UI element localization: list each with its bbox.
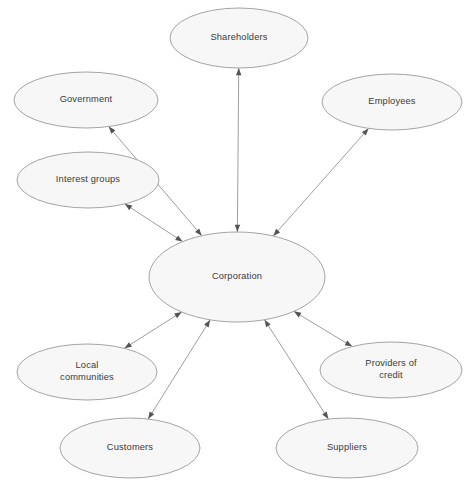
diagram-svg-surface: CorporationShareholdersGovernmentEmploye… <box>0 0 474 490</box>
node-shareholders-label: Shareholders <box>210 32 267 42</box>
edge-corporation-interest-groups-line <box>125 204 183 242</box>
node-providers-of-credit-label-line-1: credit <box>379 370 403 380</box>
edge-corporation-customers-arrowhead-to <box>148 411 154 419</box>
edge-corporation-suppliers-arrowhead-from <box>264 320 270 328</box>
node-government[interactable]: Government <box>14 72 158 128</box>
node-government-label-line-0: Government <box>60 94 113 104</box>
node-corporation-label: Corporation <box>212 271 262 281</box>
node-local-communities[interactable]: Localcommunities <box>17 344 157 400</box>
node-employees-label: Employees <box>368 96 416 106</box>
edge-corporation-suppliers-line <box>264 320 328 419</box>
edge-corporation-interest-groups <box>125 204 183 242</box>
node-suppliers-label: Suppliers <box>327 442 367 452</box>
node-providers-of-credit[interactable]: Providers ofcredit <box>320 342 462 398</box>
node-providers-of-credit-label-line-0: Providers of <box>365 359 417 369</box>
nodes-layer: CorporationShareholdersGovernmentEmploye… <box>14 8 462 478</box>
node-interest-groups-label: Interest groups <box>56 174 120 184</box>
edge-corporation-customers-line <box>148 320 210 419</box>
edge-corporation-shareholders <box>235 68 242 232</box>
stakeholder-diagram: CorporationShareholdersGovernmentEmploye… <box>0 0 474 490</box>
edge-corporation-employees <box>273 128 368 236</box>
edge-corporation-customers <box>148 320 210 419</box>
edge-corporation-local-communities-arrowhead-to <box>124 342 132 348</box>
node-local-communities-label-line-0: Local <box>76 361 99 371</box>
node-employees-label-line-0: Employees <box>368 96 416 106</box>
edge-corporation-suppliers <box>264 320 328 419</box>
edge-corporation-local-communities-arrowhead-from <box>174 312 182 318</box>
edge-corporation-providers-of-credit-arrowhead-to <box>345 341 353 347</box>
node-corporation-label-line-0: Corporation <box>212 271 262 281</box>
edge-corporation-shareholders-line <box>237 68 238 232</box>
edge-corporation-employees-line <box>273 128 368 236</box>
node-local-communities-label-line-1: communities <box>60 372 114 382</box>
edge-corporation-customers-arrowhead-from <box>204 320 210 328</box>
node-suppliers-label-line-0: Suppliers <box>327 442 367 452</box>
node-corporation[interactable]: Corporation <box>149 232 325 322</box>
node-customers-label: Customers <box>107 442 153 452</box>
node-suppliers[interactable]: Suppliers <box>276 418 418 478</box>
node-interest-groups-label-line-0: Interest groups <box>56 174 120 184</box>
node-interest-groups[interactable]: Interest groups <box>17 152 159 208</box>
edge-corporation-interest-groups-arrowhead-from <box>175 235 183 241</box>
node-shareholders[interactable]: Shareholders <box>170 8 308 68</box>
node-customers[interactable]: Customers <box>60 418 200 478</box>
node-employees[interactable]: Employees <box>322 74 462 130</box>
edge-corporation-local-communities-line <box>124 312 181 348</box>
edge-corporation-suppliers-arrowhead-to <box>322 412 328 420</box>
edge-corporation-interest-groups-arrowhead-to <box>125 204 133 210</box>
edge-corporation-providers-of-credit-arrowhead-from <box>294 311 302 317</box>
node-shareholders-label-line-0: Shareholders <box>210 32 267 42</box>
edge-corporation-local-communities <box>124 312 181 348</box>
node-government-label: Government <box>60 94 113 104</box>
node-customers-label-line-0: Customers <box>107 442 153 452</box>
edge-corporation-providers-of-credit <box>294 311 352 346</box>
edge-corporation-shareholders-arrowhead-from <box>235 225 240 232</box>
edge-corporation-providers-of-credit-line <box>294 311 352 346</box>
edge-corporation-shareholders-arrowhead-to <box>236 68 241 75</box>
